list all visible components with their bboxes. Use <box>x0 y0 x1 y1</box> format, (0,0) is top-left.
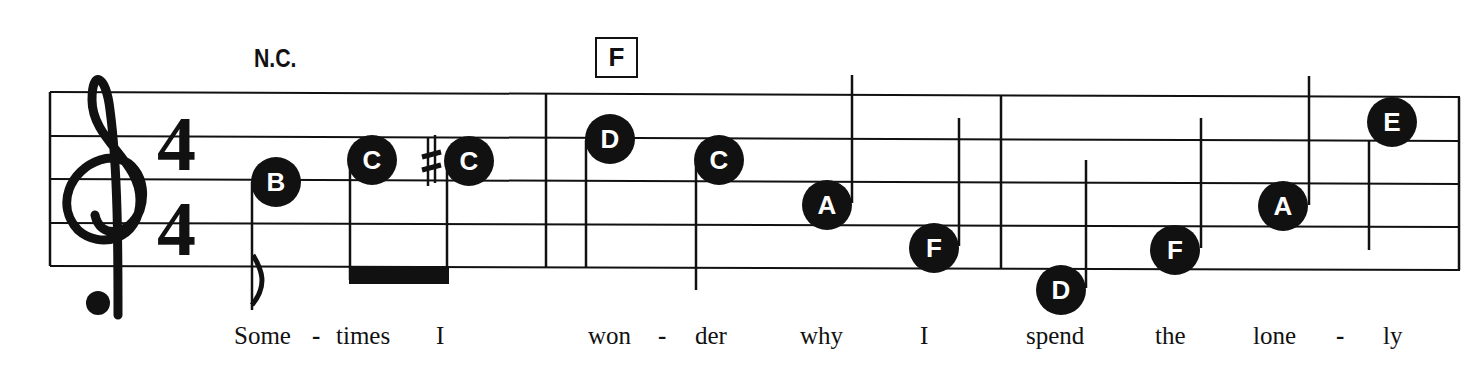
lyric-syllable: Some <box>234 322 291 350</box>
note-head: D <box>1036 265 1086 315</box>
chord-symbol-nc: N.C. <box>254 44 297 73</box>
note-head: B <box>251 157 301 207</box>
lyric-hyphen: - <box>312 322 320 350</box>
lyric-syllable: ly <box>1383 322 1402 350</box>
svg-text:4: 4 <box>157 185 196 272</box>
note-head: E <box>1367 97 1417 147</box>
note-head: C <box>444 136 494 186</box>
lyric-syllable: I <box>436 322 444 350</box>
note-head: C <box>694 135 744 185</box>
note-head: A <box>802 180 852 230</box>
lyric-hyphen: - <box>658 322 666 350</box>
sharp-icon <box>422 135 441 186</box>
treble-clef-icon <box>67 79 143 315</box>
time-signature: 4 4 <box>157 100 196 272</box>
note-head: A <box>1258 181 1308 231</box>
eighth-flag-icon <box>252 255 262 305</box>
lyric-syllable: lone <box>1253 322 1296 350</box>
lyric-syllable: I <box>920 322 928 350</box>
lyric-syllable: why <box>800 322 843 350</box>
lyric-hyphen: - <box>1336 322 1344 350</box>
svg-text:4: 4 <box>157 100 196 187</box>
lyric-syllable: won <box>588 322 631 350</box>
chord-symbol-boxed: F <box>595 37 638 78</box>
note-head: F <box>909 223 959 273</box>
music-staff: 4 4 <box>0 0 1469 382</box>
eighth-beam <box>349 266 449 284</box>
note-head: D <box>585 114 635 164</box>
note-head: F <box>1150 225 1200 275</box>
note-head: C <box>347 135 397 185</box>
lyric-syllable: times <box>336 322 390 350</box>
lyric-syllable: der <box>695 322 727 350</box>
lyric-syllable: spend <box>1026 322 1084 350</box>
lyric-syllable: the <box>1155 322 1186 350</box>
